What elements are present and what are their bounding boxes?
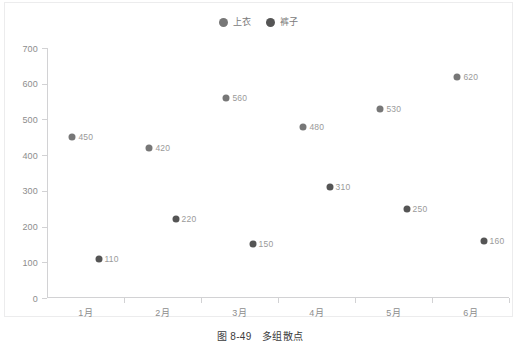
x-axis-tick (432, 298, 433, 303)
scatter-point[interactable] (300, 123, 307, 130)
y-axis-tick: 500 (42, 119, 47, 120)
y-axis-tick-label: 500 (22, 115, 38, 125)
scatter-point[interactable] (223, 95, 230, 102)
y-axis-tick: 200 (42, 227, 47, 228)
legend-item[interactable]: 上衣 (219, 18, 251, 27)
x-axis-tick (278, 298, 279, 303)
x-axis-tick (509, 298, 510, 303)
x-axis-tick-label: 4月 (309, 306, 323, 319)
plot-area: 01002003004005006007001月2月3月4月5月6月450420… (47, 48, 509, 298)
scatter-point[interactable] (403, 205, 410, 212)
scatter-point[interactable] (249, 241, 256, 248)
y-axis-tick: 700 (42, 48, 47, 49)
scatter-point[interactable] (95, 255, 102, 262)
scatter-point[interactable] (146, 145, 153, 152)
x-axis-tick-label: 1月 (78, 306, 92, 319)
chart-legend: 上衣裤子 (5, 18, 512, 27)
y-axis-tick: 600 (42, 84, 47, 85)
y-axis-tick: 100 (42, 262, 47, 263)
scatter-point-label: 150 (259, 239, 274, 249)
x-axis-tick-label: 3月 (232, 306, 246, 319)
scatter-point[interactable] (454, 73, 461, 80)
x-axis-tick (201, 298, 202, 303)
scatter-point-label: 530 (386, 104, 401, 114)
y-axis-tick-label: 400 (22, 151, 38, 161)
scatter-point-label: 250 (413, 204, 428, 214)
scatter-point-label: 620 (463, 72, 478, 82)
scatter-point-label: 160 (490, 236, 505, 246)
y-axis-line (47, 48, 48, 298)
y-axis-tick-label: 700 (22, 44, 38, 54)
x-axis-tick (355, 298, 356, 303)
scatter-point-label: 420 (155, 143, 170, 153)
legend-label: 上衣 (233, 18, 251, 27)
scatter-point-label: 480 (309, 122, 324, 132)
figure-title: 多组散点 (262, 331, 304, 342)
x-axis-tick-label: 6月 (463, 306, 477, 319)
scatter-point-label: 560 (232, 93, 247, 103)
scatter-point[interactable] (172, 216, 179, 223)
scatter-point[interactable] (326, 184, 333, 191)
chart-card: 上衣裤子 01002003004005006007001月2月3月4月5月6月4… (4, 2, 513, 317)
circle-marker-icon (219, 18, 228, 27)
figure-number: 图 8-49 (217, 331, 252, 342)
y-axis-tick: 400 (42, 155, 47, 156)
y-axis-tick-label: 100 (22, 258, 38, 268)
scatter-point-label: 220 (182, 214, 197, 224)
scatter-point[interactable] (377, 105, 384, 112)
x-axis-tick-label: 2月 (155, 306, 169, 319)
figure-caption: 图 8-49多组散点 (0, 328, 520, 343)
scatter-point-label: 110 (105, 254, 119, 264)
y-axis-tick-label: 600 (22, 79, 38, 89)
x-axis-tick-label: 5月 (386, 306, 400, 319)
y-axis-tick-label: 200 (22, 222, 38, 232)
scatter-point[interactable] (69, 134, 76, 141)
legend-label: 裤子 (280, 18, 298, 27)
x-axis-tick (124, 298, 125, 303)
y-axis-tick: 0 (42, 298, 47, 299)
scatter-point-label: 310 (336, 182, 351, 192)
circle-marker-icon (266, 18, 275, 27)
scatter-point-label: 450 (78, 132, 93, 142)
scatter-point[interactable] (480, 237, 487, 244)
y-axis-tick-label: 0 (33, 294, 38, 304)
y-axis-tick-label: 300 (22, 186, 38, 196)
legend-item[interactable]: 裤子 (266, 18, 298, 27)
chart-page: 上衣裤子 01002003004005006007001月2月3月4月5月6月4… (0, 0, 520, 359)
y-axis-tick: 300 (42, 191, 47, 192)
